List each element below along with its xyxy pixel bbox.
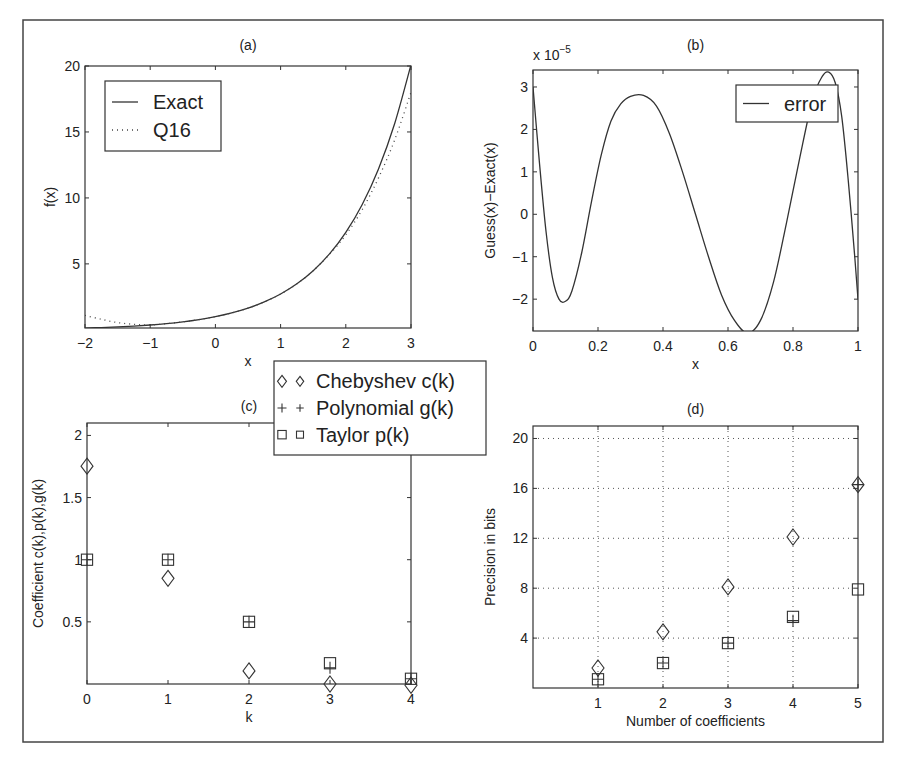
y-tick-label: 12 [512, 530, 528, 546]
y-tick-label: 16 [512, 480, 528, 496]
y-tick-label: 5 [72, 256, 80, 272]
x-tick-label: 1 [854, 338, 862, 354]
y-axis-label: Coefficient c(k),p(k),g(k) [30, 479, 46, 628]
plus-marker [592, 673, 604, 685]
panel-title: (c) [241, 398, 257, 414]
y-tick-label: 4 [520, 630, 528, 646]
x-tick-label: 1 [277, 335, 285, 351]
legend-label: Q16 [153, 119, 191, 141]
panel-b-error-curve: 00.20.40.60.81−2−10123(b)xGuess(x)−Exact… [482, 37, 862, 372]
y-tick-label: 1.5 [63, 490, 83, 506]
y-tick-label: 8 [520, 580, 528, 596]
x-tick-label: 1 [594, 695, 602, 711]
panel-title: (b) [687, 37, 704, 53]
x-tick-label: 0.6 [718, 338, 738, 354]
panel-c-coefficients: 012340.511.52(c)kCoefficient c(k),p(k),g… [30, 361, 486, 725]
x-tick-label: 0 [212, 335, 220, 351]
x-tick-label: 3 [326, 691, 334, 707]
y-tick-label: 0.5 [63, 614, 83, 630]
y-axis-label: Precision in bits [482, 508, 498, 606]
x-tick-label: 2 [245, 691, 253, 707]
x-tick-label: 3 [407, 335, 415, 351]
panel-d-precision-bits: 1234548121620(d)Number of coefficientsPr… [482, 401, 864, 729]
plus-marker [722, 637, 734, 649]
figure-svg: −2−101235101520(a)xf(x)ExactQ16 00.20.40… [0, 0, 897, 763]
x-tick-label: 5 [854, 695, 862, 711]
panel-title: (a) [239, 37, 256, 53]
legend-label: Exact [153, 91, 203, 113]
plus-marker [787, 615, 799, 627]
axes-box [533, 426, 858, 688]
plus-marker [324, 662, 336, 674]
plus-marker [657, 657, 669, 669]
series-polynomial-g-k [81, 554, 417, 685]
y-tick-label: 20 [512, 430, 528, 446]
x-axis-label: Number of coefficients [626, 713, 765, 729]
legend-label: error [784, 93, 827, 115]
y-axis-label: f(x) [42, 187, 58, 207]
series-chebyshev-c-k [81, 458, 417, 693]
legend: Chebyshev c(k)Polynomial g(k)Taylor p(k) [274, 361, 486, 455]
x-tick-label: 0 [529, 338, 537, 354]
x-axis-label: x [692, 356, 699, 372]
x-tick-label: 2 [659, 695, 667, 711]
x-axis-label: k [246, 709, 254, 725]
x-tick-label: 1 [164, 691, 172, 707]
x-tick-label: −2 [77, 335, 93, 351]
x-tick-label: 4 [789, 695, 797, 711]
y-tick-label: 2 [74, 427, 82, 443]
y-tick-label: 1 [520, 164, 528, 180]
plus-marker [162, 554, 174, 566]
legend: error [736, 85, 838, 122]
y-tick-label: 0 [520, 206, 528, 222]
panel-title: (d) [687, 401, 704, 417]
y-tick-label: 3 [520, 79, 528, 95]
legend-label: Taylor p(k) [316, 424, 409, 446]
series-taylor-p-k [592, 584, 863, 685]
x-tick-label: 2 [342, 335, 350, 351]
plus-marker [243, 616, 255, 628]
legend: ExactQ16 [105, 81, 221, 151]
x-tick-label: −1 [142, 335, 158, 351]
x-tick-label: 0.4 [653, 338, 673, 354]
y-tick-label: 20 [64, 58, 80, 74]
y-axis-label: Guess(x)−Exact(x) [482, 142, 498, 258]
legend-label: Chebyshev c(k) [316, 370, 455, 392]
panel-a-exp-approximation: −2−101235101520(a)xf(x)ExactQ16 [42, 37, 415, 369]
axes-box [87, 423, 411, 684]
x-tick-label: 0.2 [588, 338, 608, 354]
x-tick-label: 0.8 [783, 338, 803, 354]
x-axis-label: x [245, 353, 252, 369]
y-tick-label: −2 [512, 291, 528, 307]
diamond-marker [243, 663, 255, 679]
legend-label: Polynomial g(k) [316, 397, 454, 419]
y-tick-label: 10 [64, 190, 80, 206]
y-tick-label: 15 [64, 124, 80, 140]
diamond-marker [162, 570, 174, 586]
y-axis-multiplier: x 10−5 [533, 44, 571, 63]
figure-container: −2−101235101520(a)xf(x)ExactQ16 00.20.40… [0, 0, 897, 763]
x-tick-label: 0 [83, 691, 91, 707]
x-tick-label: 3 [724, 695, 732, 711]
y-tick-label: 2 [520, 121, 528, 137]
y-tick-label: −1 [512, 249, 528, 265]
